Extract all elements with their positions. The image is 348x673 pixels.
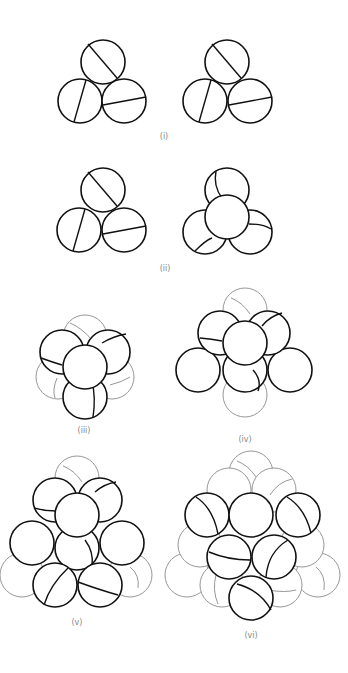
panel-i: (i) bbox=[58, 40, 272, 141]
panel-label: (vi) bbox=[244, 631, 257, 640]
panel-i-right-cluster bbox=[183, 40, 272, 123]
panel-label: (ii) bbox=[160, 264, 171, 273]
panel-v: (v) bbox=[0, 456, 152, 627]
panel-i-left-cluster bbox=[58, 40, 146, 123]
panel-ii-left-cluster bbox=[57, 168, 146, 252]
sphere bbox=[252, 535, 296, 579]
panel-iii: (iii) bbox=[36, 315, 134, 435]
sphere bbox=[223, 321, 267, 365]
panel-label: (iv) bbox=[238, 435, 251, 444]
sphere bbox=[100, 521, 144, 565]
sphere bbox=[205, 195, 249, 239]
sphere bbox=[185, 493, 229, 537]
sphere bbox=[33, 563, 77, 607]
panel-ii: (ii) bbox=[57, 168, 272, 273]
sphere bbox=[55, 493, 99, 537]
sphere bbox=[63, 345, 107, 389]
panel-ii-right-cluster bbox=[183, 168, 272, 254]
panel-iv: (iv) bbox=[176, 288, 312, 444]
sphere bbox=[229, 576, 273, 620]
panel-label: (iii) bbox=[78, 426, 91, 435]
panel-vi: (vi) bbox=[165, 451, 340, 640]
sphere bbox=[276, 493, 320, 537]
sphere bbox=[207, 535, 251, 579]
sphere-packing-diagram: (i) (ii) bbox=[0, 0, 348, 673]
sphere bbox=[229, 493, 273, 537]
sphere bbox=[10, 521, 54, 565]
panel-label: (v) bbox=[72, 618, 83, 627]
panel-label: (i) bbox=[160, 132, 168, 141]
